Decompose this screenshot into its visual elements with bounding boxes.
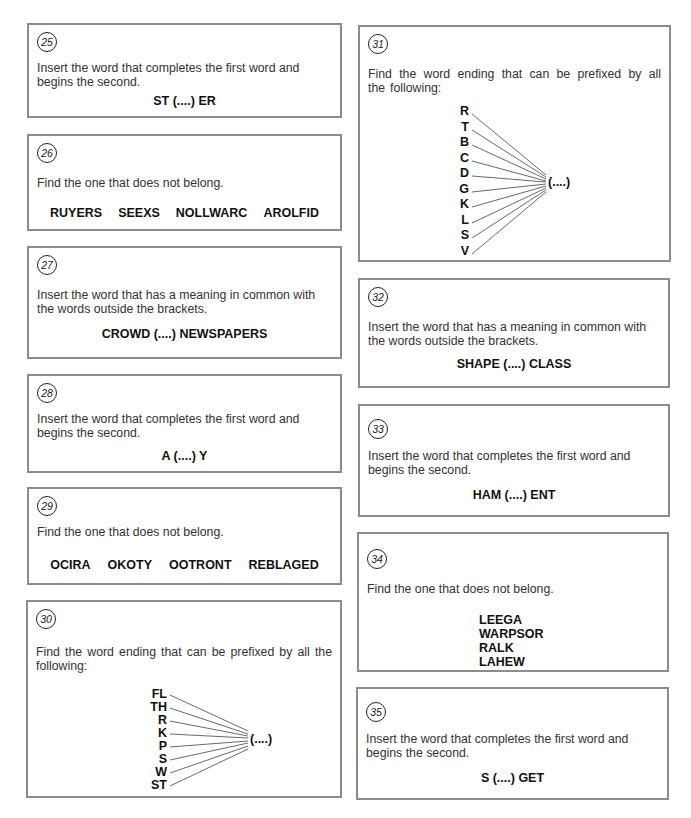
word-option: LEEGA bbox=[479, 613, 544, 627]
puzzle-35: 35 Insert the word that completes the fi… bbox=[356, 687, 669, 800]
puzzle-number-badge: 32 bbox=[368, 287, 388, 307]
prefix-label: B bbox=[439, 136, 469, 149]
puzzle-instruction: Insert the word that has a meaning in co… bbox=[368, 320, 660, 348]
prefix-label: L bbox=[439, 214, 469, 227]
puzzle-number-badge: 29 bbox=[37, 496, 57, 516]
puzzle-31: 31 Find the word ending that can be pref… bbox=[358, 25, 671, 262]
puzzle-30: 30 Find the word ending that can be pref… bbox=[26, 600, 342, 798]
word-option: RUYERS bbox=[50, 206, 102, 220]
prefix-label: ST bbox=[137, 779, 167, 792]
word-list: RUYERS SEEXS NOLLWARC AROLFID bbox=[29, 206, 340, 220]
puzzle-instruction: Insert the word that completes the first… bbox=[37, 412, 332, 440]
puzzle-expression: CROWD (....) NEWSPAPERS bbox=[29, 327, 340, 341]
puzzle-expression: A (....) Y bbox=[29, 449, 340, 463]
puzzle-instruction: Find the one that does not belong. bbox=[367, 582, 659, 596]
prefix-label: C bbox=[439, 152, 469, 165]
prefix-label: R bbox=[439, 105, 469, 118]
word-option: AROLFID bbox=[263, 206, 319, 220]
prefix-label: D bbox=[439, 167, 469, 180]
puzzle-expression: ST (....) ER bbox=[29, 94, 340, 108]
puzzle-26: 26 Find the one that does not belong. RU… bbox=[27, 134, 342, 231]
puzzle-number-badge: 28 bbox=[37, 383, 57, 403]
puzzle-number-badge: 27 bbox=[37, 255, 57, 275]
word-option: OOTRONT bbox=[169, 558, 232, 572]
word-option: SEEXS bbox=[118, 206, 160, 220]
puzzle-34: 34 Find the one that does not belong. LE… bbox=[357, 532, 669, 672]
word-option: OCIRA bbox=[50, 558, 90, 572]
puzzle-expression: HAM (....) ENT bbox=[360, 488, 668, 502]
word-option: NOLLWARC bbox=[176, 206, 248, 220]
puzzle-number-badge: 25 bbox=[37, 32, 57, 52]
puzzle-instruction: Insert the word that completes the first… bbox=[37, 61, 332, 89]
answer-blank: (....) bbox=[250, 733, 272, 746]
prefix-fan-diagram: R T B C D G K L S V (....) bbox=[360, 27, 673, 264]
word-list: OCIRA OKOTY OOTRONT REBLAGED bbox=[29, 558, 340, 572]
puzzle-33: 33 Insert the word that completes the fi… bbox=[358, 404, 670, 517]
puzzle-number-badge: 33 bbox=[368, 419, 388, 439]
puzzle-25: 25 Insert the word that completes the fi… bbox=[27, 23, 342, 118]
prefix-label: T bbox=[439, 121, 469, 134]
word-option: RALK bbox=[479, 641, 544, 655]
prefix-label: S bbox=[439, 229, 469, 242]
word-list: LEEGA WARPSOR RALK LAHEW bbox=[479, 613, 544, 669]
puzzle-instruction: Insert the word that completes the first… bbox=[366, 732, 659, 760]
connector-lines bbox=[360, 27, 673, 264]
puzzle-32: 32 Insert the word that has a meaning in… bbox=[358, 278, 670, 388]
puzzle-27: 27 Insert the word that has a meaning in… bbox=[27, 246, 342, 359]
puzzle-29: 29 Find the one that does not belong. OC… bbox=[27, 487, 342, 585]
puzzle-number-badge: 35 bbox=[366, 702, 386, 722]
connector-lines bbox=[28, 602, 344, 800]
word-option: REBLAGED bbox=[249, 558, 319, 572]
puzzle-expression: S (....) GET bbox=[358, 771, 667, 785]
prefix-label: K bbox=[439, 198, 469, 211]
puzzle-28: 28 Insert the word that completes the fi… bbox=[27, 374, 342, 473]
word-option: OKOTY bbox=[108, 558, 152, 572]
puzzle-instruction: Insert the word that has a meaning in co… bbox=[37, 288, 332, 316]
answer-blank: (....) bbox=[548, 176, 570, 189]
puzzle-expression: SHAPE (....) CLASS bbox=[360, 357, 668, 371]
puzzle-number-badge: 26 bbox=[37, 143, 57, 163]
puzzle-instruction: Find the one that does not belong. bbox=[37, 176, 332, 190]
prefix-fan-diagram: FL TH R K P S W ST (....) bbox=[28, 602, 344, 800]
puzzle-instruction: Insert the word that completes the first… bbox=[368, 449, 660, 477]
word-option: WARPSOR bbox=[479, 627, 544, 641]
word-option: LAHEW bbox=[479, 655, 544, 669]
puzzle-instruction: Find the one that does not belong. bbox=[37, 525, 332, 539]
puzzle-number-badge: 34 bbox=[367, 549, 387, 569]
prefix-label: V bbox=[439, 245, 469, 258]
prefix-label: G bbox=[439, 183, 469, 196]
